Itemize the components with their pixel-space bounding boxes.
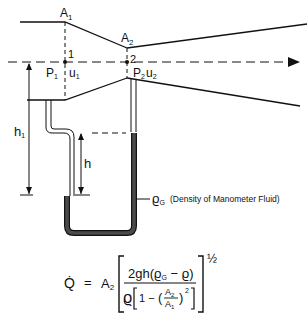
formula-a2: A2 [165, 287, 175, 298]
svg-text:): ) [179, 290, 183, 305]
formula-a1: A1 [165, 299, 175, 310]
h1-dimension [20, 63, 33, 195]
label-p1: P1 [46, 66, 58, 80]
svg-text:(: ( [158, 290, 163, 305]
label-u2: u2 [146, 66, 157, 80]
label-station-2: 2 [130, 53, 136, 65]
label-h1: h1 [14, 124, 25, 139]
label-p2: P2 [133, 66, 145, 80]
formula-denominator-rho: ϱ [123, 289, 132, 306]
formula-equals: = [84, 275, 92, 290]
labels: A1 A2 1 2 P1 u1 P2 u2 h1 h ϱG (Density o… [14, 6, 280, 206]
formula-numerator: 2gh(ϱG − ϱ) [128, 266, 194, 281]
label-a1: A1 [60, 6, 73, 22]
label-a2: A2 [121, 31, 134, 47]
manometer [46, 79, 150, 233]
formula-square: 2 [185, 287, 189, 294]
formula-coef: A2 [101, 276, 115, 292]
label-rho-g-desc: (Density of Manometer Fluid) [170, 194, 280, 204]
section-lines [65, 22, 127, 100]
label-station-1: 1 [68, 48, 74, 60]
flow-arrow-icon [288, 57, 300, 67]
label-h: h [84, 156, 91, 171]
label-rho-g: ϱG [152, 191, 165, 206]
pipe-outline [20, 22, 307, 106]
flow-rate-formula: Q̇ = A2 2gh(ϱG − ϱ) ϱ 1 − ( A2 A1 ) 2 ½ [64, 252, 217, 312]
formula-one-minus: 1 − [139, 292, 155, 304]
formula-lhs: Q̇ [64, 275, 75, 291]
formula-exponent: ½ [207, 252, 217, 266]
h-dimension [75, 133, 126, 195]
label-u1: u1 [69, 66, 80, 80]
venturi-diagram: A1 A2 1 2 P1 u1 P2 u2 h1 h ϱG (Density o… [0, 0, 307, 324]
diagram-svg: A1 A2 1 2 P1 u1 P2 u2 h1 h ϱG (Density o… [0, 0, 307, 324]
